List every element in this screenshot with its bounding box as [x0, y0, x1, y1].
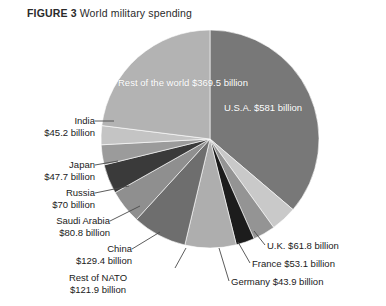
callout-japan-value: $47.7 billion [0, 171, 95, 183]
callout-russia-name: Russia [0, 187, 95, 199]
leader-line-france [238, 242, 250, 263]
slice-label-rest-of-world: Rest of the world $369.5 billion [118, 77, 234, 89]
slice-label-usa: U.S.A. $581 billion [222, 102, 304, 114]
slice-label-rest-of-world-name: Rest of the world [118, 77, 189, 88]
callout-china: China $129.4 billion [0, 243, 132, 266]
callout-russia-value: $70 billion [0, 199, 95, 211]
callout-japan: Japan $47.7 billion [0, 159, 95, 182]
callout-france-text: France $53.1 billion [252, 258, 335, 270]
callout-india-value: $45.2 billion [0, 127, 95, 139]
callout-china-value: $129.4 billion [0, 255, 132, 267]
callout-india-name: India [0, 115, 95, 127]
callout-rest-of-nato: Rest of NATO $121.9 billion [30, 272, 166, 295]
callout-india: India $45.2 billion [0, 115, 95, 138]
callout-china-name: China [0, 243, 132, 255]
leader-line-nato [175, 248, 186, 268]
callout-saudi-arabia-name: Saudi Arabia [0, 215, 110, 227]
leader-line-china [132, 232, 160, 249]
callout-russia: Russia $70 billion [0, 187, 95, 210]
callout-saudi-arabia-value: $80.8 billion [0, 227, 110, 239]
figure-container: FIGURE 3 World military spending U.S.A. [0, 0, 386, 306]
callout-rest-of-nato-name: Rest of NATO [30, 272, 166, 284]
callout-saudi-arabia: Saudi Arabia $80.8 billion [0, 215, 110, 238]
pie-slice-group [101, 30, 319, 248]
callout-germany-text: Germany $43.9 billion [231, 276, 323, 288]
slice-label-usa-name: U.S.A. [224, 102, 251, 113]
callout-uk: U.K. $61.8 billion [267, 240, 339, 252]
callout-rest-of-nato-value: $121.9 billion [30, 284, 166, 296]
slice-label-usa-value: $581 billion [254, 102, 302, 113]
slice-label-rest-of-world-value: $369.5 billion [192, 77, 248, 88]
callout-france: France $53.1 billion [252, 258, 335, 270]
callout-japan-name: Japan [0, 159, 95, 171]
leader-line-germany [219, 248, 229, 281]
callout-germany: Germany $43.9 billion [231, 276, 323, 288]
callout-uk-text: U.K. $61.8 billion [267, 240, 339, 252]
